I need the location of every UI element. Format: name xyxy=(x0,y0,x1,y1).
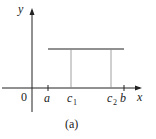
figure-caption: (a) xyxy=(65,117,78,131)
tick-label-a: a xyxy=(44,91,50,105)
y-axis-label: y xyxy=(17,2,24,16)
x-axis-label: x xyxy=(136,90,143,104)
tick-sub-c1: 1 xyxy=(73,98,77,107)
tick-label-b: b xyxy=(120,91,126,105)
y-axis-arrow-icon xyxy=(30,8,35,15)
diagram-canvas: y x 0 a c 1 c 2 b (a) xyxy=(0,0,156,139)
tick-sub-c2: 2 xyxy=(113,98,117,107)
origin-label: 0 xyxy=(21,90,27,104)
